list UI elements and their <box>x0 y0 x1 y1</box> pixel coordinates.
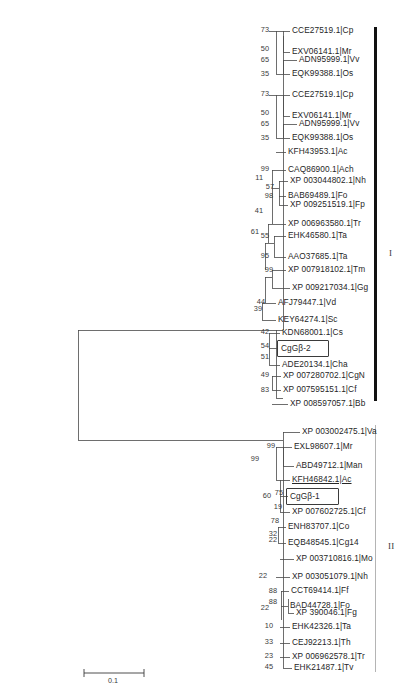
taxon-label: CEJ92213.1|Th <box>292 638 351 647</box>
bootstrap-value: 54 <box>258 342 269 350</box>
taxon-label: EHK21487.1|Tv <box>294 663 354 672</box>
bootstrap-value: 95 <box>258 252 269 260</box>
bootstrap-value: 45 <box>262 663 273 671</box>
taxon-label: ADN95999.1|Vv <box>299 55 359 64</box>
bootstrap-value: 83 <box>258 386 269 394</box>
taxon-label: EQK99388.1|Os <box>292 69 353 78</box>
taxon-label: ADN95999.1|Vv <box>299 119 359 128</box>
taxon-label: ENH83707.1|Co <box>288 522 349 531</box>
taxon-label: AAO37685.1|Ta <box>288 252 348 261</box>
taxon-label: KFH43953.1|Ac <box>288 147 348 156</box>
root-branch <box>78 330 283 440</box>
bootstrap-value: 78 <box>268 517 279 525</box>
taxon-label: XP 008597057.1|Bb <box>290 399 365 408</box>
taxon-label: XP 009217034.1|Gg <box>292 283 368 292</box>
bootstrap-value: 23 <box>262 652 273 660</box>
bootstrap-value: 10 <box>262 622 273 630</box>
taxon-label: XP 007602725.1|Cf <box>292 507 366 516</box>
bootstrap-value: 22 <box>256 572 267 580</box>
bootstrap-value: 73 <box>258 26 269 34</box>
bootstrap-value: 60 <box>260 492 271 500</box>
taxon-label: CCE27519.1|Cp <box>292 90 353 99</box>
bootstrap-value: 35 <box>258 70 269 78</box>
clade-numeral-two: II <box>388 541 395 551</box>
taxon-label: CCE27519.1|Cp <box>292 26 353 35</box>
clade-numeral-one: I <box>389 248 392 258</box>
taxon-label: CCT69414.1|Ff <box>291 586 349 595</box>
bootstrap-value: 33 <box>262 638 273 646</box>
bootstrap-value: 41 <box>252 207 263 215</box>
taxon-label: KEY64274.1|Sc <box>278 315 338 324</box>
bootstrap-value: 99 <box>248 455 259 463</box>
taxon-label: EXL98607.1|Mr <box>294 442 353 451</box>
taxon-label: XP 006962578.1|Tr <box>292 652 365 661</box>
taxon-label: EQK99388.1|Os <box>292 133 353 142</box>
taxon-label: CAQ86900.1|Ach <box>288 165 354 174</box>
bootstrap-value: 50 <box>258 45 269 53</box>
bootstrap-value: 35 <box>258 134 269 142</box>
taxon-label: XP 003710816.1|Mo <box>296 554 373 563</box>
bootstrap-value: 42 <box>258 328 269 336</box>
taxon-label: XP 007595151.1|Cf <box>283 385 357 394</box>
taxon-label: KFH46842.1|Ac <box>292 475 352 484</box>
taxon-label: XP 003002475.1|Va <box>302 427 377 436</box>
bootstrap-value: 73 <box>258 90 269 98</box>
scale-bar-label: 0.1 <box>108 676 118 685</box>
taxon-label: AFJ79447.1|Vd <box>278 298 336 307</box>
bootstrap-value: 19 <box>271 503 282 511</box>
bootstrap-value: 22 <box>266 536 277 544</box>
taxon-label: XP 003044802.1|Nh <box>290 176 366 185</box>
taxon-label: CgGβ-2 <box>281 344 311 353</box>
bootstrap-value: 75 <box>272 489 283 497</box>
taxon-label: KDN68001.1|Cs <box>282 328 343 337</box>
taxon-label: ABD49712.1|Man <box>296 461 363 470</box>
taxon-label: XP 003051079.1|Nh <box>292 572 368 581</box>
clade-bar-two <box>375 425 376 672</box>
bootstrap-value: 57 <box>263 183 274 191</box>
bootstrap-value: 88 <box>266 587 277 595</box>
bootstrap-value: 49 <box>258 371 269 379</box>
bootstrap-value: 65 <box>258 120 269 128</box>
taxon-label: XP 007918102.1|Tm <box>288 265 365 274</box>
bootstrap-value: 22 <box>258 604 269 612</box>
bootstrap-value: 51 <box>258 353 269 361</box>
taxon-label: EHK42326.1|Ta <box>292 622 351 631</box>
taxon-label: XP 006963580.1|Tr <box>288 219 361 228</box>
bootstrap-value: 39 <box>251 305 262 313</box>
taxon-label: XP 009251519.1|Fp <box>290 200 365 209</box>
taxon-label: EQB48545.1|Cg14 <box>288 538 359 547</box>
taxon-label: EHK46580.1|Ta <box>288 231 347 240</box>
bootstrap-value: 99 <box>258 165 269 173</box>
bootstrap-value: 11 <box>252 174 263 182</box>
bootstrap-value: 55 <box>258 232 269 240</box>
taxon-label: XP 007280702.1|CgN <box>283 371 365 380</box>
bootstrap-value: 65 <box>258 56 269 64</box>
bootstrap-value: 99 <box>262 266 273 274</box>
clade-bar-one <box>374 27 377 401</box>
bootstrap-value: 98 <box>262 192 273 200</box>
bootstrap-value: 50 <box>258 109 269 117</box>
bootstrap-value: 99 <box>264 442 275 450</box>
taxon-label: XP 390046.1|Fg <box>296 608 357 617</box>
taxon-label: CgGβ-1 <box>290 492 320 501</box>
taxon-label: ADE20134.1|Cha <box>282 360 348 369</box>
